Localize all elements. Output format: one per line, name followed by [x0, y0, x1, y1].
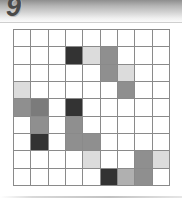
puzzle-cell-r5-c9[interactable]: [153, 99, 170, 116]
puzzle-cell-r6-c6[interactable]: [101, 117, 118, 134]
puzzle-cell-r4-c8[interactable]: [135, 82, 152, 99]
puzzle-cell-r9-c3[interactable]: [49, 169, 66, 186]
puzzle-cell-r9-c9[interactable]: [153, 169, 170, 186]
puzzle-cell-r6-c1[interactable]: [14, 117, 31, 134]
puzzle-cell-r3-c6[interactable]: [101, 65, 118, 82]
puzzle-cell-r1-c5[interactable]: [83, 30, 100, 47]
puzzle-cell-r2-c5[interactable]: [83, 47, 100, 64]
puzzle-cell-r4-c3[interactable]: [49, 82, 66, 99]
puzzle-cell-r6-c8[interactable]: [135, 117, 152, 134]
puzzle-cell-r7-c4[interactable]: [66, 134, 83, 151]
puzzle-cell-r1-c2[interactable]: [31, 30, 48, 47]
footer-divider: [0, 196, 182, 198]
puzzle-cell-r5-c4[interactable]: [66, 99, 83, 116]
puzzle-cell-r2-c9[interactable]: [153, 47, 170, 64]
puzzle-cell-r9-c4[interactable]: [66, 169, 83, 186]
puzzle-cell-r8-c5[interactable]: [83, 151, 100, 168]
puzzle-cell-r6-c7[interactable]: [118, 117, 135, 134]
puzzle-cell-r2-c6[interactable]: [101, 47, 118, 64]
puzzle-cell-r8-c2[interactable]: [31, 151, 48, 168]
puzzle-cell-r8-c6[interactable]: [101, 151, 118, 168]
puzzle-cell-r9-c2[interactable]: [31, 169, 48, 186]
puzzle-cell-r9-c5[interactable]: [83, 169, 100, 186]
puzzle-cell-r4-c9[interactable]: [153, 82, 170, 99]
puzzle-cell-r8-c8[interactable]: [135, 151, 152, 168]
puzzle-cell-r4-c2[interactable]: [31, 82, 48, 99]
puzzle-cell-r7-c1[interactable]: [14, 134, 31, 151]
puzzle-cell-r1-c9[interactable]: [153, 30, 170, 47]
puzzle-cell-r8-c1[interactable]: [14, 151, 31, 168]
puzzle-cell-r3-c3[interactable]: [49, 65, 66, 82]
puzzle-grid[interactable]: [13, 29, 170, 186]
puzzle-cell-r7-c3[interactable]: [49, 134, 66, 151]
puzzle-cell-r7-c6[interactable]: [101, 134, 118, 151]
puzzle-cell-r5-c8[interactable]: [135, 99, 152, 116]
puzzle-cell-r7-c2[interactable]: [31, 134, 48, 151]
puzzle-cell-r2-c4[interactable]: [66, 47, 83, 64]
puzzle-cell-r5-c5[interactable]: [83, 99, 100, 116]
puzzle-grid-container: [13, 29, 170, 186]
puzzle-cell-r3-c5[interactable]: [83, 65, 100, 82]
puzzle-cell-r1-c1[interactable]: [14, 30, 31, 47]
puzzle-cell-r4-c4[interactable]: [66, 82, 83, 99]
puzzle-cell-r3-c8[interactable]: [135, 65, 152, 82]
page-header-band: 9: [0, 0, 182, 22]
puzzle-cell-r9-c8[interactable]: [135, 169, 152, 186]
puzzle-cell-r2-c2[interactable]: [31, 47, 48, 64]
puzzle-cell-r2-c7[interactable]: [118, 47, 135, 64]
puzzle-cell-r6-c3[interactable]: [49, 117, 66, 134]
puzzle-cell-r3-c4[interactable]: [66, 65, 83, 82]
puzzle-cell-r4-c5[interactable]: [83, 82, 100, 99]
puzzle-cell-r9-c1[interactable]: [14, 169, 31, 186]
puzzle-cell-r8-c3[interactable]: [49, 151, 66, 168]
puzzle-cell-r6-c5[interactable]: [83, 117, 100, 134]
puzzle-cell-r5-c6[interactable]: [101, 99, 118, 116]
puzzle-cell-r1-c3[interactable]: [49, 30, 66, 47]
page-number: 9: [6, 0, 20, 21]
puzzle-cell-r5-c1[interactable]: [14, 99, 31, 116]
puzzle-cell-r5-c2[interactable]: [31, 99, 48, 116]
puzzle-cell-r9-c7[interactable]: [118, 169, 135, 186]
puzzle-cell-r8-c7[interactable]: [118, 151, 135, 168]
puzzle-cell-r2-c8[interactable]: [135, 47, 152, 64]
puzzle-cell-r9-c6[interactable]: [101, 169, 118, 186]
puzzle-cell-r3-c7[interactable]: [118, 65, 135, 82]
puzzle-cell-r4-c1[interactable]: [14, 82, 31, 99]
puzzle-cell-r2-c1[interactable]: [14, 47, 31, 64]
puzzle-cell-r3-c9[interactable]: [153, 65, 170, 82]
puzzle-cell-r7-c9[interactable]: [153, 134, 170, 151]
puzzle-cell-r6-c4[interactable]: [66, 117, 83, 134]
puzzle-cell-r6-c2[interactable]: [31, 117, 48, 134]
puzzle-cell-r6-c9[interactable]: [153, 117, 170, 134]
puzzle-cell-r1-c6[interactable]: [101, 30, 118, 47]
puzzle-cell-r3-c2[interactable]: [31, 65, 48, 82]
puzzle-cell-r3-c1[interactable]: [14, 65, 31, 82]
puzzle-cell-r7-c8[interactable]: [135, 134, 152, 151]
header-divider: [0, 22, 182, 23]
puzzle-cell-r8-c4[interactable]: [66, 151, 83, 168]
puzzle-cell-r1-c4[interactable]: [66, 30, 83, 47]
puzzle-cell-r1-c7[interactable]: [118, 30, 135, 47]
puzzle-cell-r7-c7[interactable]: [118, 134, 135, 151]
puzzle-cell-r1-c8[interactable]: [135, 30, 152, 47]
puzzle-cell-r8-c9[interactable]: [153, 151, 170, 168]
puzzle-cell-r2-c3[interactable]: [49, 47, 66, 64]
puzzle-cell-r5-c3[interactable]: [49, 99, 66, 116]
puzzle-cell-r4-c6[interactable]: [101, 82, 118, 99]
puzzle-cell-r5-c7[interactable]: [118, 99, 135, 116]
puzzle-cell-r4-c7[interactable]: [118, 82, 135, 99]
puzzle-cell-r7-c5[interactable]: [83, 134, 100, 151]
